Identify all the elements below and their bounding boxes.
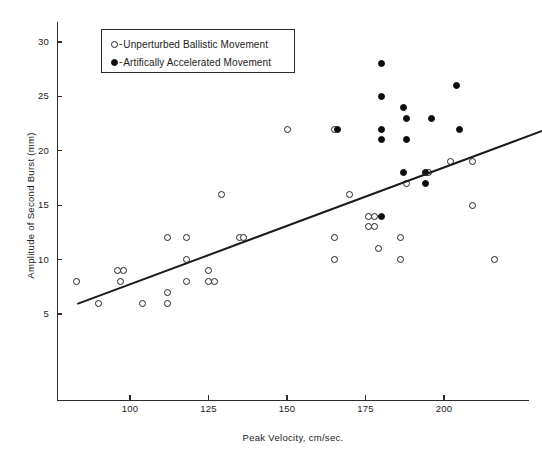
y-tick-label: 30 <box>23 37 49 46</box>
data-point-filled <box>378 93 385 100</box>
y-tick-label: 10 <box>23 255 49 264</box>
data-point-filled <box>422 180 429 187</box>
data-point-open <box>205 267 212 274</box>
x-axis-line <box>57 400 529 401</box>
x-tick <box>129 395 130 400</box>
x-tick <box>443 395 444 400</box>
open-circle-icon <box>111 41 118 48</box>
y-tick <box>57 96 62 97</box>
data-point-open <box>346 191 353 198</box>
data-point-open <box>164 289 171 296</box>
x-tick-label: 175 <box>346 403 386 414</box>
legend-label-unperturbed: Unperturbed Ballistic Movement <box>123 39 268 50</box>
x-tick-label: 150 <box>267 403 307 414</box>
data-point-open <box>120 267 127 274</box>
data-point-open <box>139 300 146 307</box>
data-point-open <box>469 158 476 165</box>
y-tick-label-wrap: 15 <box>0 200 57 210</box>
y-tick <box>57 205 62 206</box>
data-point-filled <box>378 126 385 133</box>
data-point-filled <box>400 104 407 111</box>
x-tick <box>286 395 287 400</box>
data-point-open <box>284 126 291 133</box>
data-point-filled <box>378 60 385 67</box>
data-point-filled <box>378 213 385 220</box>
data-point-open <box>183 234 190 241</box>
y-tick-label: 20 <box>23 146 49 155</box>
data-point-open <box>218 191 225 198</box>
data-point-filled <box>456 126 463 133</box>
data-point-open <box>211 278 218 285</box>
data-point-open <box>371 223 378 230</box>
data-point-filled <box>400 169 407 176</box>
data-point-open <box>95 300 102 307</box>
x-tick-label: 200 <box>424 403 464 414</box>
y-tick <box>57 313 62 314</box>
legend-box: - Unperturbed Ballistic Movement - Artif… <box>101 29 295 73</box>
y-tick-label: 5 <box>23 309 49 318</box>
x-tick-label: 125 <box>189 403 229 414</box>
y-tick-label-wrap: 20 <box>0 146 57 156</box>
data-point-filled <box>403 136 410 143</box>
y-tick-label-wrap: 25 <box>0 91 57 101</box>
legend-item-accelerated: - Artifically Accelerated Movement <box>111 53 294 71</box>
data-point-filled <box>403 115 410 122</box>
data-point-open <box>117 278 124 285</box>
data-point-filled <box>453 82 460 89</box>
filled-circle-icon <box>111 59 118 66</box>
data-point-filled <box>428 115 435 122</box>
data-point-open <box>491 256 498 263</box>
data-point-open <box>73 278 80 285</box>
data-point-open <box>397 256 404 263</box>
y-tick-label-wrap: 10 <box>0 255 57 265</box>
data-point-open <box>375 245 382 252</box>
data-point-filled <box>378 136 385 143</box>
regression-trendline <box>77 130 542 305</box>
data-point-open <box>183 278 190 285</box>
y-tick <box>57 259 62 260</box>
y-tick-label-wrap: 30 <box>0 37 57 47</box>
data-point-open <box>331 256 338 263</box>
y-tick <box>57 41 62 42</box>
data-point-open <box>331 234 338 241</box>
y-tick <box>57 150 62 151</box>
y-tick-label: 25 <box>23 91 49 100</box>
x-tick-label: 100 <box>110 403 150 414</box>
x-tick <box>365 395 366 400</box>
data-point-open <box>397 234 404 241</box>
y-tick-label-wrap: 5 <box>0 309 57 319</box>
data-point-filled <box>334 126 341 133</box>
y-tick-label: 15 <box>23 200 49 209</box>
data-point-open <box>469 202 476 209</box>
data-point-open <box>164 300 171 307</box>
x-axis-title: Peak Velocity, cm/sec. <box>57 432 529 443</box>
x-tick <box>208 395 209 400</box>
data-point-open <box>164 234 171 241</box>
legend-item-unperturbed: - Unperturbed Ballistic Movement <box>111 35 294 53</box>
y-axis-line <box>57 22 58 400</box>
legend-label-accelerated: Artifically Accelerated Movement <box>123 57 271 68</box>
